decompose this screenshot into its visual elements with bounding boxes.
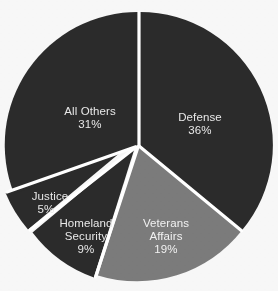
label-all-others-value: 31% (78, 118, 101, 130)
label-veterans-name-line2: Affairs (149, 230, 182, 242)
label-homeland-name-line1: Homeland (59, 217, 112, 229)
label-veterans-name-line1: Veterans (143, 217, 189, 229)
label-defense-value: 36% (188, 124, 211, 136)
label-homeland-value: 9% (78, 243, 95, 255)
label-defense-name: Defense (178, 111, 222, 123)
label-veterans-value: 19% (154, 243, 177, 255)
label-justice-value: 5% (38, 203, 55, 215)
label-justice-name: Justice (32, 190, 69, 202)
pie-chart-svg: Defense 36% Veterans Affairs 19% Homelan… (0, 0, 278, 291)
label-homeland-name-line2: Security (65, 230, 107, 242)
pie-chart-figure: Defense 36% Veterans Affairs 19% Homelan… (0, 0, 278, 291)
label-all-others-name: All Others (64, 105, 116, 117)
